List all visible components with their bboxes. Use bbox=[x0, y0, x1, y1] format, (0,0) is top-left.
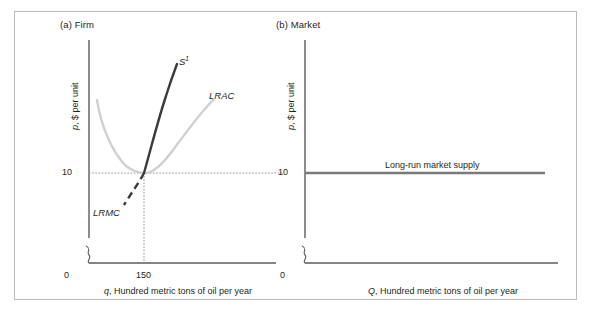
panel-b-axis-break-icon bbox=[302, 246, 306, 263]
panel-a-axis-break-icon bbox=[86, 246, 90, 263]
curve-lrmc bbox=[124, 173, 144, 205]
curve-s1 bbox=[144, 64, 177, 173]
figure-container: (a) Firm p, $ per unit q, Hundred metric… bbox=[0, 0, 592, 319]
figure-artwork bbox=[0, 0, 592, 319]
curve-lrac bbox=[97, 99, 214, 173]
